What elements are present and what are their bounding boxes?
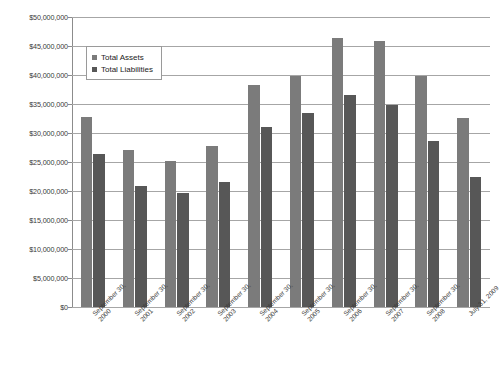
bar-total-liabilities: [219, 182, 231, 307]
y-axis-tick-label: $40,000,000: [0, 71, 68, 80]
bar-total-assets: [290, 76, 302, 307]
y-axis-tick: [68, 46, 72, 47]
bar-total-assets: [374, 41, 386, 307]
bar-chart: $0$5,000,000$10,000,000$15,000,000$20,00…: [0, 0, 502, 365]
y-axis-tick-label: $0: [0, 303, 68, 312]
y-axis-tick: [68, 307, 72, 308]
y-axis-tick-label: $15,000,000: [0, 216, 68, 225]
bar-total-liabilities: [177, 193, 189, 307]
y-axis-tick: [68, 249, 72, 250]
y-axis-tick-label: $45,000,000: [0, 42, 68, 51]
bar-total-liabilities: [302, 113, 314, 307]
bar-total-assets: [457, 118, 469, 307]
bar-total-liabilities: [135, 186, 147, 307]
bar-total-liabilities: [386, 105, 398, 307]
y-axis-tick: [68, 162, 72, 163]
y-axis-tick: [68, 278, 72, 279]
y-axis-tick: [68, 220, 72, 221]
gridline: [72, 17, 490, 18]
legend-label: Total Assets: [101, 53, 144, 62]
y-axis-tick-label: $5,000,000: [0, 274, 68, 283]
y-axis-tick: [68, 75, 72, 76]
y-axis-tick: [68, 104, 72, 105]
y-axis-tick-label: $10,000,000: [0, 245, 68, 254]
y-axis-tick: [68, 133, 72, 134]
bar-total-assets: [248, 85, 260, 307]
gridline: [72, 133, 490, 134]
y-axis-tick-label: $25,000,000: [0, 158, 68, 167]
bar-total-liabilities: [344, 95, 356, 307]
bar-total-assets: [81, 117, 93, 307]
legend-swatch-icon: [92, 55, 97, 60]
chart-legend: Total Assets Total Liabilities: [86, 46, 162, 80]
bar-total-liabilities: [470, 177, 482, 307]
legend-item-total-liabilities: Total Liabilities: [92, 63, 153, 75]
y-axis-tick: [68, 17, 72, 18]
y-axis-tick-label: $50,000,000: [0, 13, 68, 22]
legend-item-total-assets: Total Assets: [92, 51, 153, 63]
bar-total-liabilities: [261, 127, 273, 307]
y-axis-tick-label: $20,000,000: [0, 187, 68, 196]
legend-swatch-icon: [92, 67, 97, 72]
bar-total-assets: [415, 76, 427, 307]
y-axis-tick-label: $30,000,000: [0, 129, 68, 138]
bar-total-liabilities: [428, 141, 440, 307]
y-axis-tick-label: $35,000,000: [0, 100, 68, 109]
y-axis-tick: [68, 191, 72, 192]
legend-label: Total Liabilities: [101, 65, 153, 74]
bar-total-assets: [332, 38, 344, 307]
gridline: [72, 104, 490, 105]
bar-total-liabilities: [93, 154, 105, 307]
